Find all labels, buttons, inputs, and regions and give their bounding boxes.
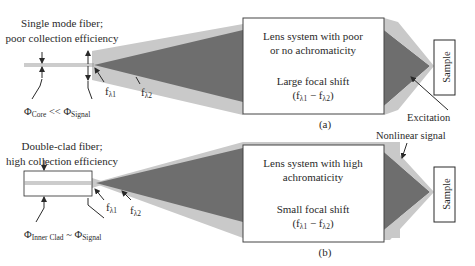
phi-relation-b: ΦInner Clad ~ ΦSignal	[24, 229, 101, 242]
lens-desc-a-line2: or no achromaticity	[270, 44, 357, 56]
fiber-title-b-line1: Double-clad fiber;	[22, 140, 103, 152]
nonlinear-signal-arrow	[402, 143, 407, 158]
f1-arrow-b	[95, 189, 104, 200]
phi-signal-leader-a	[88, 81, 92, 99]
nonlinear-signal-label: Nonlinear signal	[376, 130, 446, 141]
focal-shift-a-line1: Large focal shift	[277, 75, 350, 87]
f2-label-b: fλ2	[130, 204, 141, 218]
phi-relation-a: ΦCore << ΦSignal	[24, 106, 90, 119]
lens-desc-a-line1: Lens system with poor	[263, 30, 363, 42]
phi-signal-leader-b	[88, 198, 104, 218]
lens-desc-b-line1: Lens system with high	[263, 157, 363, 169]
fiber-title-a-line2: poor collection efficiency	[6, 32, 119, 44]
sample-label-a: Sample	[441, 51, 452, 83]
fiber-title-b-line2: high collection efficiency	[6, 155, 119, 167]
lens-desc-b-line2: achromaticity	[283, 171, 344, 183]
excitation-label: Excitation	[407, 112, 451, 123]
phi-core-leader-a	[32, 79, 42, 99]
f1-label-a: fλ1	[105, 85, 116, 99]
caption-b: (b)	[319, 246, 332, 259]
caption-a: (a)	[319, 118, 332, 131]
diagram-canvas: Single mode fiber; poor collection effic…	[0, 0, 475, 266]
focal-shift-b-line1: Small focal shift	[277, 203, 350, 215]
panel-b: Double-clad fiber; high collection effic…	[6, 130, 455, 259]
phi-clad-leader-b	[36, 208, 44, 222]
sample-label-b: Sample	[441, 178, 452, 210]
panel-a: Single mode fiber; poor collection effic…	[6, 17, 455, 131]
fiber-title-a-line1: Single mode fiber;	[21, 17, 103, 29]
f1-label-b: fλ1	[106, 201, 117, 215]
